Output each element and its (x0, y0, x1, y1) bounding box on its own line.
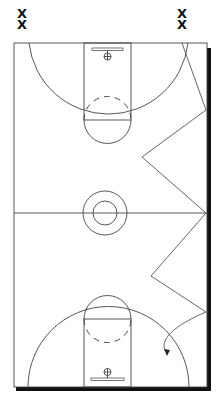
curved-finish-path (164, 312, 206, 352)
court-boundary (14, 43, 207, 387)
player-marker-left-bottom: X (17, 17, 27, 32)
top-free-throw-circle-dashed (84, 97, 131, 121)
top-free-throw-circle-solid (84, 120, 131, 144)
court-shadow-bottom (16, 387, 211, 391)
bottom-backboard (91, 378, 124, 381)
bottom-free-throw-circle-dashed (84, 319, 131, 343)
top-three-point-arc (29, 43, 188, 114)
top-half-court (29, 43, 188, 144)
top-backboard (92, 48, 123, 51)
zigzag-dribble-path (142, 43, 206, 312)
bottom-free-throw-circle-solid (84, 296, 131, 320)
basketball-court-diagram: X X X X (0, 0, 220, 411)
arrowhead-icon (164, 349, 170, 356)
court-shadow-right (207, 48, 211, 391)
player-marker-right-bottom: X (177, 17, 187, 32)
